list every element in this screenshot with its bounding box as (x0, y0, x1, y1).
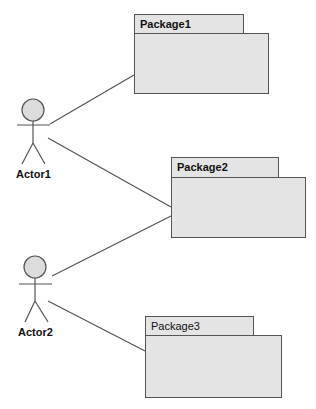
package3-tab[interactable]: Package3 (145, 316, 254, 336)
actor1-label: Actor1 (16, 168, 51, 180)
association-actor1-package2[interactable] (48, 138, 171, 207)
package2-label: Package2 (177, 161, 228, 173)
package1-tab[interactable]: Package1 (134, 14, 244, 34)
association-actor2-package2[interactable] (52, 216, 171, 276)
package3-body[interactable] (145, 335, 282, 398)
association-actor1-package1[interactable] (50, 75, 134, 124)
package1-label: Package1 (140, 18, 191, 30)
package2-body[interactable] (171, 177, 306, 238)
actor2-icon[interactable] (19, 256, 52, 322)
association-actor2-package3[interactable] (48, 301, 145, 351)
package1-body[interactable] (134, 33, 269, 94)
actor1-icon[interactable] (17, 99, 50, 164)
actor2-label: Actor2 (18, 326, 53, 338)
package3-label: Package3 (151, 320, 200, 332)
package2-tab[interactable]: Package2 (171, 157, 279, 178)
